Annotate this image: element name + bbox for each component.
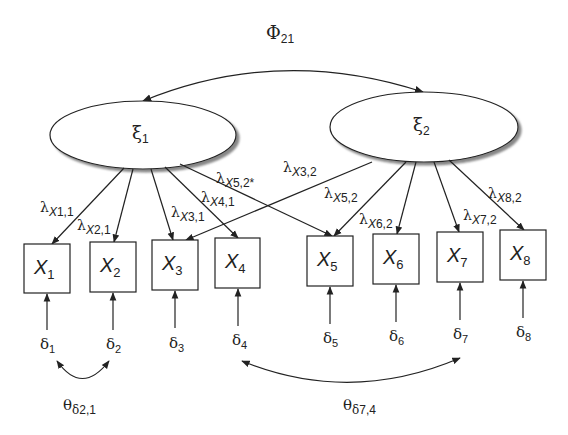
latent-covariance-label: Φ21 [266,24,294,45]
indicator-subscript: 2 [113,265,120,280]
latent-factor-xi2-label: ξ2 [413,116,430,137]
lambda-symbol: λ [77,217,86,233]
error-delta6-label: δ6 [389,328,404,347]
error-covariance-label-2-1: θδ2,1 [63,397,96,416]
loading-index: 5,2* [233,176,254,190]
loading-label-x3-1: λX3,1 [171,205,205,223]
loading-label-x3-2: λX3,2 [283,160,317,178]
lambda-symbol: λ [216,170,225,186]
indicator-symbol: X [510,242,523,264]
error-delta4-label: δ4 [232,332,247,351]
loading-index: 6,2 [376,217,393,231]
delta-symbol: δ [106,335,115,353]
error-covariance-arc-7-4 [242,358,460,382]
indicator-subscript: 1 [47,267,54,282]
indicator-symbol: X [162,252,175,274]
lambda-symbol: λ [201,189,210,205]
loading-label-x8-2: λX8,2 [488,186,522,204]
indicator-subscript: 4 [238,261,245,276]
error-delta1-label: δ1 [40,336,55,355]
indicator-subscript: 3 [175,263,182,278]
delta-subscript: 2 [115,343,121,355]
indicator-x7-label: X7 [447,245,468,269]
delta-symbol: δ [323,329,332,347]
loading-index: 3,2 [300,165,317,179]
error-delta2-label: δ2 [106,336,121,355]
loading-index: 7,2 [480,213,497,227]
loading-index: 3,1 [188,210,205,224]
lambda-symbol: λ [488,185,497,201]
delta-symbol: δ [453,325,462,343]
indicator-x3-label: X3 [162,253,183,277]
delta-subscript: 5 [332,337,338,349]
error-delta7-label: δ7 [453,326,468,345]
loading-label-x5-2: λX5,2 [324,186,358,204]
xi-subscript: 1 [142,132,149,146]
loading-label-x6-2: λX6,2 [359,212,393,230]
indicator-symbol: X [100,254,113,276]
indicator-symbol: X [447,244,460,266]
indicator-symbol: X [225,250,238,272]
loading-var: X [49,205,57,219]
error-delta8-label: δ8 [516,324,531,343]
indicator-x4-label: X4 [225,251,246,275]
delta-subscript: 4 [241,339,247,351]
indicator-x5-label: X5 [317,249,338,273]
delta-subscript: 3 [178,342,184,354]
loading-var: X [86,223,94,237]
xi-symbol: ξ [132,122,142,143]
error-covariance-arc-2-1 [57,361,109,379]
delta-symbol: δ [389,327,398,345]
lambda-symbol: λ [324,185,333,201]
error-covariance-label-7-4: θδ7,4 [343,397,376,416]
indicator-subscript: 7 [460,255,467,270]
loading-var: X [497,191,505,205]
indicator-symbol: X [317,248,330,270]
indicator-x6-label: X6 [383,247,404,271]
lambda-symbol: λ [171,204,180,220]
delta-subscript: 8 [525,331,531,343]
delta-symbol: δ [516,323,525,341]
indicator-x8-label: X8 [510,243,531,267]
loading-index: 4,1 [218,195,235,209]
indicator-symbol: X [34,256,47,278]
phi-symbol: Φ [266,22,281,43]
loading-index: 1,1 [57,205,74,219]
loading-index: 8,2 [505,191,522,205]
xi-symbol: ξ [413,114,423,135]
latent-factor-xi1-label: ξ1 [132,124,149,145]
error-delta5-label: δ5 [323,330,338,349]
delta-symbol: δ [232,331,241,349]
loading-var: X [180,210,188,224]
indicator-subscript: 5 [330,259,337,274]
delta-subscript: 1 [49,343,55,355]
loading-index: 5,2 [341,191,358,205]
delta-subscript: 7 [462,333,468,345]
loading-var: X [368,217,376,231]
delta-symbol: δ [169,334,178,352]
theta-symbol: θ [343,396,352,414]
loading-var: X [292,165,300,179]
lambda-symbol: λ [283,159,292,175]
indicator-subscript: 8 [523,253,530,268]
loading-index: 2,1 [94,223,111,237]
indicator-x1-label: X1 [34,257,55,281]
delta-subscript: 6 [398,335,404,347]
loading-var: X [472,213,480,227]
loading-var: X [225,176,233,190]
lambda-symbol: λ [359,211,368,227]
lambda-symbol: λ [40,199,49,215]
theta-index: 7,4 [359,403,376,417]
indicator-subscript: 6 [396,257,403,272]
theta-index: 2,1 [79,403,96,417]
delta-symbol: δ [40,335,49,353]
loading-label-x1-1: λX1,1 [40,200,74,218]
xi-subscript: 2 [423,124,430,138]
theta-symbol: θ [63,396,72,414]
indicator-symbol: X [383,246,396,268]
phi-subscript: 21 [281,32,294,46]
loading-var: X [333,191,341,205]
loading-label-x7-2: λX7,2 [463,208,497,226]
lambda-symbol: λ [463,207,472,223]
indicator-x2-label: X2 [100,255,121,279]
